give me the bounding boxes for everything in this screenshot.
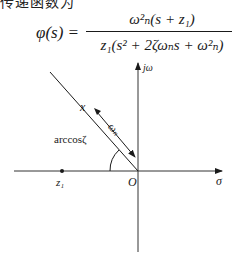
zero-point: [60, 169, 64, 173]
radial-line: [50, 72, 138, 171]
imag-axis-label: jω: [143, 62, 153, 73]
real-axis-label: σ: [216, 174, 222, 189]
origin-label: O: [128, 175, 137, 190]
angle-arc: [110, 150, 119, 171]
pole-marker-label: x: [80, 100, 85, 115]
zero-label: z₁: [56, 176, 64, 188]
angle-label: arccosζ: [54, 133, 87, 145]
